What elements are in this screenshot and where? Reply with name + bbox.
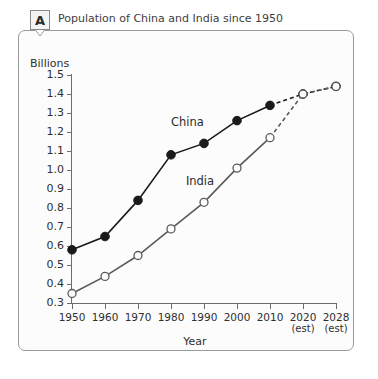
y-tick-label: 1.5	[30, 68, 64, 81]
y-tick	[67, 246, 72, 247]
y-tick	[67, 94, 72, 95]
y-tick-label: 0.4	[30, 277, 64, 290]
x-tick	[336, 304, 337, 309]
figure-panel-a: A Population of China and India since 19…	[0, 0, 378, 379]
x-tick	[270, 304, 271, 309]
y-tick-label: 0.3	[30, 296, 64, 309]
y-tick-label: 1.2	[30, 125, 64, 138]
x-tick	[72, 304, 73, 309]
series-label-india: India	[186, 174, 214, 188]
y-tick	[67, 227, 72, 228]
series-label-china: China	[171, 115, 204, 129]
y-tick-label: 0.7	[30, 220, 64, 233]
y-tick	[67, 170, 72, 171]
y-tick	[67, 132, 72, 133]
y-tick	[67, 265, 72, 266]
y-tick	[67, 75, 72, 76]
y-tick-label: 0.5	[30, 258, 64, 271]
x-tick	[105, 304, 106, 309]
y-tick	[67, 284, 72, 285]
y-tick-label: 0.6	[30, 239, 64, 252]
x-tick	[204, 304, 205, 309]
y-tick	[67, 208, 72, 209]
y-tick	[67, 189, 72, 190]
y-tick-label: 1.3	[30, 106, 64, 119]
y-tick	[67, 113, 72, 114]
x-tick	[138, 304, 139, 309]
panel-tag-a: A	[30, 10, 50, 30]
y-tick-label: 0.8	[30, 201, 64, 214]
x-axis-title: Year	[0, 335, 378, 348]
x-tick-label: 2028	[316, 311, 356, 323]
y-tick-label: 0.9	[30, 182, 64, 195]
y-tick-label: 1.0	[30, 163, 64, 176]
x-tick	[171, 304, 172, 309]
y-tick-label: 1.1	[30, 144, 64, 157]
y-tick-label: 1.4	[30, 87, 64, 100]
x-tick	[237, 304, 238, 309]
panel-title: Population of China and India since 1950	[58, 12, 283, 25]
x-tick	[303, 304, 304, 309]
x-tick-sublabel: (est)	[316, 323, 356, 334]
y-tick	[67, 151, 72, 152]
